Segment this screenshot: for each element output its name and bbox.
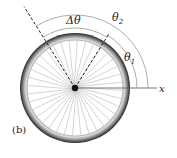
delta-theta-label: Δθ <box>65 14 81 27</box>
hub <box>72 85 78 91</box>
x-axis-label: x <box>159 83 165 94</box>
panel-label: (b) <box>12 124 26 135</box>
wheel-angle-diagram: x Δθ θ2 θ1 (b) <box>0 0 177 158</box>
theta1-label: θ1 <box>124 51 135 66</box>
theta2-label: θ2 <box>112 11 124 26</box>
